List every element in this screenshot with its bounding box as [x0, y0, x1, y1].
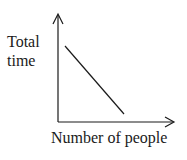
data-line — [65, 46, 124, 114]
x-axis-label: Number of people — [51, 128, 167, 147]
